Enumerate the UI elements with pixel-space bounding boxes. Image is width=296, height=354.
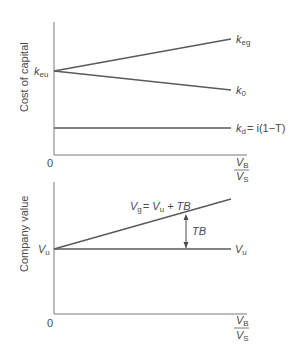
x-axis-label: VB VS bbox=[234, 314, 249, 343]
v-u-label: Vu bbox=[235, 243, 247, 257]
k-0-label: k0 bbox=[236, 84, 247, 98]
k-eg-line bbox=[54, 39, 231, 71]
x-axis-label: VB VS bbox=[234, 156, 249, 184]
k-0-line bbox=[54, 71, 231, 90]
y-axis-label: Cost of capital bbox=[18, 42, 30, 112]
k-d-label: kd= i(1−T) bbox=[236, 122, 285, 136]
svg-text:VS: VS bbox=[236, 329, 249, 343]
svg-text:VB: VB bbox=[236, 156, 249, 170]
origin-label: 0 bbox=[47, 157, 53, 169]
v-g-label: Vg= Vu + TB bbox=[130, 200, 191, 214]
cost-of-capital-chart: Cost of capital 0 keu keg k0 kd= i(1−T) … bbox=[18, 22, 285, 184]
svg-text:VB: VB bbox=[236, 314, 249, 328]
y-axis-label: Company value bbox=[18, 196, 30, 272]
svg-text:VS: VS bbox=[236, 170, 249, 184]
k-eg-label: keg bbox=[236, 33, 250, 47]
k-eu-label: keu bbox=[34, 65, 48, 79]
company-value-chart: Company value 0 Vu TB Vg= Vu + TB Vu VB … bbox=[18, 182, 249, 343]
tb-double-arrow-icon bbox=[184, 214, 189, 248]
origin-label: 0 bbox=[47, 317, 53, 329]
v-u-intercept-label: Vu bbox=[38, 243, 50, 257]
tb-label: TB bbox=[192, 225, 206, 237]
chart-canvas: Cost of capital 0 keu keg k0 kd= i(1−T) … bbox=[0, 0, 296, 354]
